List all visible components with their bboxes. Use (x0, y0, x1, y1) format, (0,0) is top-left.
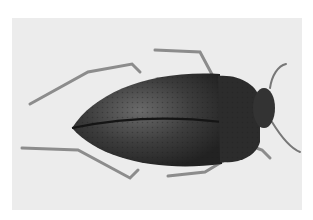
beetle-image (0, 0, 313, 220)
beetle-head (253, 88, 275, 128)
